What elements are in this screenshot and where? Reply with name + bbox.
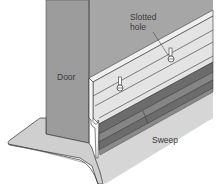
door-label: Door bbox=[57, 73, 75, 82]
door-sweep-diagram bbox=[0, 0, 216, 184]
slotted-hole-label-line2: hole bbox=[130, 23, 146, 32]
slotted-hole-label-line1: Slotted bbox=[130, 13, 156, 22]
sweep-label: Sweep bbox=[152, 136, 178, 145]
